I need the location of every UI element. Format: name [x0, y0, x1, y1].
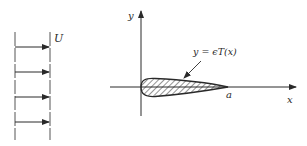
airfoil: a: [141, 78, 232, 100]
y-axis-label: y: [127, 10, 134, 21]
uniform-flow-profile: U: [15, 32, 64, 140]
airfoil-shape: [141, 78, 228, 96]
leader-arrow: [184, 61, 201, 78]
x-axis-label: x: [287, 94, 293, 105]
chord-end-label: a: [226, 89, 232, 100]
diagram-canvas: U y x a y = ϵT(x): [0, 0, 307, 146]
flow-speed-label: U: [54, 32, 64, 45]
coordinate-axes: y x: [110, 10, 296, 116]
thickness-equation-label: y = ϵT(x): [192, 46, 237, 57]
thickness-equation-annotation: y = ϵT(x): [184, 46, 237, 78]
